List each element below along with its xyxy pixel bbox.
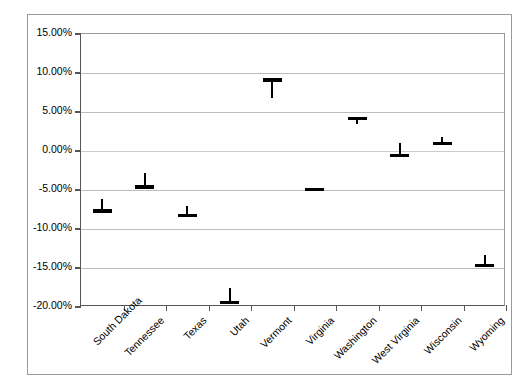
y-axis-labels: 15.00%10.00%5.00%0.00%-5.00%-10.00%-15.0… bbox=[0, 33, 72, 306]
x-axis-labels: South DakotaTennesseeTexasUtahVermontVir… bbox=[80, 306, 505, 386]
marker-value-bar bbox=[433, 142, 452, 145]
y-axis-tick-label: -5.00% bbox=[39, 183, 72, 194]
marker-value-bar bbox=[305, 188, 324, 191]
plot-area bbox=[80, 33, 505, 306]
data-marker bbox=[336, 34, 379, 307]
marker-value-bar bbox=[263, 78, 282, 81]
marker-value-bar bbox=[93, 209, 112, 212]
y-axis-tick-label: 10.00% bbox=[36, 66, 72, 77]
marker-whisker bbox=[271, 80, 273, 98]
marker-value-bar bbox=[390, 154, 409, 157]
y-axis-tick-label: 5.00% bbox=[42, 105, 72, 116]
chart-root: 15.00%10.00%5.00%0.00%-5.00%-10.00%-15.0… bbox=[0, 0, 523, 392]
y-axis-tick-label: -15.00% bbox=[33, 261, 72, 272]
marker-value-bar bbox=[348, 117, 367, 120]
y-axis-tick-label: 0.00% bbox=[42, 144, 72, 155]
marker-value-bar bbox=[475, 264, 494, 267]
marker-value-bar bbox=[220, 301, 239, 304]
data-marker bbox=[166, 34, 209, 307]
data-marker bbox=[379, 34, 422, 307]
x-tick bbox=[506, 305, 507, 311]
marker-value-bar bbox=[135, 185, 154, 188]
x-axis-category-label: South Dakota bbox=[90, 314, 123, 347]
y-axis-tick-label: 15.00% bbox=[36, 27, 72, 38]
y-axis-tick-label: -20.00% bbox=[33, 300, 72, 311]
data-marker bbox=[294, 34, 337, 307]
data-marker bbox=[421, 34, 464, 307]
data-marker bbox=[209, 34, 252, 307]
data-marker bbox=[251, 34, 294, 307]
data-marker bbox=[464, 34, 507, 307]
y-axis-tick-label: -10.00% bbox=[33, 222, 72, 233]
data-marker bbox=[124, 34, 167, 307]
data-marker bbox=[81, 34, 124, 307]
marker-value-bar bbox=[178, 214, 197, 217]
